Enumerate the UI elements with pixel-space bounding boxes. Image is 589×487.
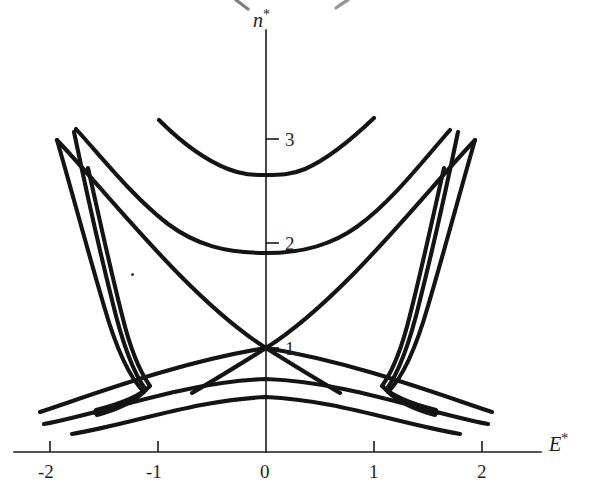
x-tick-label--2: -2: [38, 462, 54, 481]
figure-canvas: -2 -1 0 1 2 1 2 3 n* E*: [0, 0, 589, 487]
y-axis-label-text: n: [253, 9, 263, 31]
plot-svg: [0, 0, 589, 487]
axes-group: [14, 30, 541, 452]
y-axis-ticks: [266, 139, 279, 348]
curve-left-hook-3: [57, 140, 144, 415]
x-axis-label-superscript: *: [561, 431, 568, 446]
y-tick-label-2: 2: [285, 234, 295, 253]
x-tick-label-0: 0: [260, 462, 270, 481]
x-tick-label-1: 1: [369, 462, 379, 481]
y-tick-label-3: 3: [285, 130, 295, 149]
curve-parabola-n2: [76, 129, 450, 253]
x-tick-label--1: -1: [146, 462, 162, 481]
x-axis-label-text: E: [549, 433, 561, 455]
scan-speck: [131, 273, 134, 276]
curve-right-hook-3: [388, 140, 475, 415]
y-axis-label-superscript: *: [263, 7, 270, 22]
y-tick-label-1: 1: [285, 339, 295, 358]
curve-fragment-top-right: [336, 0, 348, 8]
curve-fragment-top-left: [236, 0, 248, 9]
x-tick-label-2: 2: [477, 462, 487, 481]
x-axis-label: E*: [549, 432, 568, 454]
y-axis-label: n*: [253, 8, 270, 30]
